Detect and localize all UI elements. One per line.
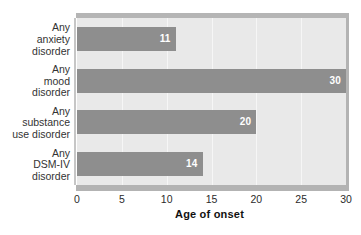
category-label-any-substance-use-disorder: Any substance use disorder: [0, 106, 70, 141]
gridline: [256, 18, 257, 185]
bar: 11: [77, 27, 176, 51]
value-axis-tick-labels: 051015202530: [70, 192, 349, 208]
bar: 30: [77, 69, 346, 93]
gridline: [212, 18, 213, 185]
gridline: [301, 18, 302, 185]
bar-value-label: 11: [160, 34, 171, 44]
bar-value-label: 14: [186, 159, 198, 169]
bar-value-label: 30: [329, 76, 341, 86]
bar-chart: Any anxiety disorder Any mood disorder A…: [0, 0, 361, 235]
plot-area: 11302014: [77, 18, 346, 185]
value-axis-tick-25: 25: [295, 192, 307, 206]
plot-frame: 11302014: [70, 13, 349, 191]
value-axis-tick-30: 30: [340, 192, 352, 206]
value-axis-tick-20: 20: [250, 192, 262, 206]
value-axis-tick-10: 10: [161, 192, 173, 206]
plot-right-border: [346, 18, 349, 185]
bar: 20: [77, 110, 256, 134]
category-axis-labels: Any anxiety disorder Any mood disorder A…: [0, 14, 70, 181]
plot-bottom-border: [76, 185, 349, 191]
bar-value-label: 20: [240, 117, 252, 127]
value-axis-tick-15: 15: [206, 192, 218, 206]
value-axis-tick-0: 0: [74, 192, 80, 206]
value-axis-line: [74, 18, 76, 185]
category-label-any-dsm-iv-disorder: Any DSM-IV disorder: [0, 148, 70, 183]
category-label-any-anxiety-disorder: Any anxiety disorder: [0, 22, 70, 57]
value-axis-tick-5: 5: [119, 192, 125, 206]
category-label-any-mood-disorder: Any mood disorder: [0, 64, 70, 99]
x-axis-title: Age of onset: [70, 208, 349, 220]
bar: 14: [77, 152, 203, 176]
